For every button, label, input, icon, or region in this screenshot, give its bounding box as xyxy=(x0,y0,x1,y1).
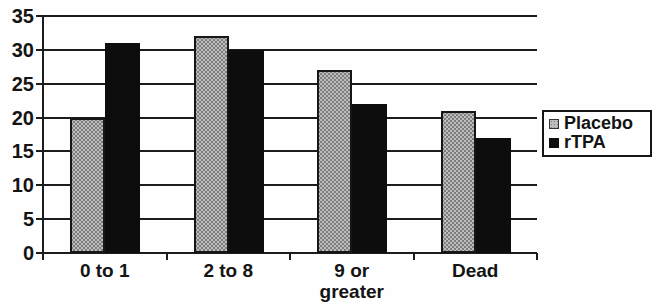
legend-item-placebo: Placebo xyxy=(549,114,646,133)
x-tick-4 xyxy=(536,253,538,260)
x-tick-3 xyxy=(413,253,415,260)
x-category-label-dead: Dead xyxy=(425,260,525,281)
bar-rtpa-dead xyxy=(476,138,511,253)
x-tick-1 xyxy=(166,253,168,260)
y-tick-label-30: 30 xyxy=(0,39,34,61)
y-tick-35 xyxy=(36,15,44,17)
y-tick-10 xyxy=(36,184,44,186)
legend-item-rtpa: rTPA xyxy=(549,133,646,152)
legend-label-rtpa: rTPA xyxy=(564,132,606,153)
bar-rtpa-2-to-8 xyxy=(229,50,264,253)
y-axis-line xyxy=(42,15,44,259)
y-tick-5 xyxy=(36,218,44,220)
y-tick-label-35: 35 xyxy=(0,5,34,27)
y-tick-label-10: 10 xyxy=(0,174,34,196)
legend: PlaceborTPA xyxy=(542,110,652,157)
x-category-label-9-or-greater: 9 or greater xyxy=(302,260,402,302)
bar-placebo-dead xyxy=(441,111,476,253)
legend-items: PlaceborTPA xyxy=(549,114,646,152)
y-tick-label-20: 20 xyxy=(0,107,34,129)
bar-chart: 05101520253035 0 to 12 to 89 or greaterD… xyxy=(0,0,654,307)
bar-placebo-9-or-greater xyxy=(317,70,352,253)
bar-placebo-2-to-8 xyxy=(194,36,229,253)
x-tick-0 xyxy=(42,253,44,260)
legend-label-placebo: Placebo xyxy=(564,113,633,134)
y-tick-30 xyxy=(36,49,44,51)
bar-placebo-0-to-1 xyxy=(70,118,105,253)
y-tick-label-0: 0 xyxy=(0,242,34,264)
x-category-label-2-to-8: 2 to 8 xyxy=(178,260,278,281)
y-tick-label-15: 15 xyxy=(0,140,34,162)
bar-rtpa-0-to-1 xyxy=(105,43,140,253)
gridline-y-35 xyxy=(43,15,537,17)
y-tick-label-25: 25 xyxy=(0,73,34,95)
bar-rtpa-9-or-greater xyxy=(352,104,387,253)
y-tick-20 xyxy=(36,117,44,119)
y-tick-15 xyxy=(36,150,44,152)
x-category-label-0-to-1: 0 to 1 xyxy=(55,260,155,281)
y-tick-25 xyxy=(36,83,44,85)
legend-swatch-rtpa xyxy=(549,138,559,148)
x-tick-2 xyxy=(289,253,291,260)
y-tick-label-5: 5 xyxy=(0,208,34,230)
legend-swatch-placebo xyxy=(549,119,559,129)
